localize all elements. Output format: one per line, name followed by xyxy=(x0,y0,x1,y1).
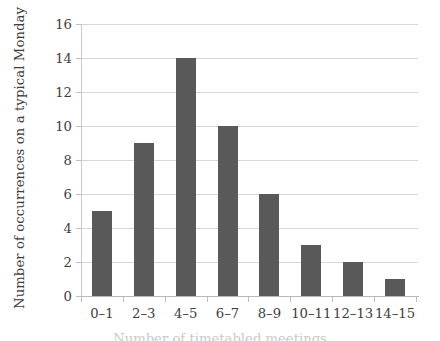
gridline xyxy=(81,262,418,263)
x-axis-tick xyxy=(374,297,375,302)
y-axis-tick-label: 8 xyxy=(0,154,72,167)
x-axis-tick-label: 14–15 xyxy=(374,307,416,320)
x-axis-tick xyxy=(165,297,166,302)
bar xyxy=(134,143,154,296)
x-axis-title-clipped: Number of timetabled meetings xyxy=(0,331,440,341)
gridline xyxy=(81,92,418,93)
y-axis-tick-label: 4 xyxy=(0,222,72,235)
y-axis-tick-label: 16 xyxy=(0,18,72,31)
bar-chart-figure: Number of occurrences on a typical Monda… xyxy=(0,0,440,341)
y-axis-tick-label: 6 xyxy=(0,188,72,201)
y-axis-tick-label: 12 xyxy=(0,86,72,99)
x-axis-tick xyxy=(290,297,291,302)
gridline xyxy=(81,126,418,127)
x-axis-tick-label: 2–3 xyxy=(123,307,165,320)
y-axis-tick-label: 14 xyxy=(0,52,72,65)
bar xyxy=(259,194,279,296)
x-axis-tick xyxy=(123,297,124,302)
bar xyxy=(218,126,238,296)
gridline xyxy=(81,58,418,59)
x-axis-tick-label: 0–1 xyxy=(81,307,123,320)
x-axis-tick xyxy=(248,297,249,302)
plot-area xyxy=(81,24,418,296)
gridline xyxy=(81,24,418,25)
bar xyxy=(92,211,112,296)
bar xyxy=(301,245,321,296)
x-axis-tick-label: 6–7 xyxy=(207,307,249,320)
x-axis-line xyxy=(81,296,419,297)
gridline xyxy=(81,194,418,195)
x-axis-tick-label: 4–5 xyxy=(165,307,207,320)
x-axis-tick xyxy=(81,297,82,302)
x-axis-tick-label: 10–11 xyxy=(290,307,332,320)
x-axis-tick xyxy=(207,297,208,302)
y-axis-tick-label: 2 xyxy=(0,256,72,269)
x-axis-tick-labels: 0–12–34–56–78–910–1112–1314–15 xyxy=(0,307,440,325)
gridline xyxy=(81,160,418,161)
x-axis-title: Number of timetabled meetings xyxy=(0,331,440,341)
y-axis-tick-label: 10 xyxy=(0,120,72,133)
y-axis-tick-labels: 0246810121416 xyxy=(0,0,72,341)
x-axis-tick-label: 12–13 xyxy=(332,307,374,320)
gridline xyxy=(81,228,418,229)
bar xyxy=(176,58,196,296)
bar xyxy=(385,279,405,296)
y-axis-line xyxy=(81,24,82,297)
y-axis-tick-label: 0 xyxy=(0,290,72,303)
x-axis-tick-label: 8–9 xyxy=(248,307,290,320)
x-axis-tick xyxy=(416,297,417,302)
x-axis-tick xyxy=(332,297,333,302)
bar xyxy=(343,262,363,296)
